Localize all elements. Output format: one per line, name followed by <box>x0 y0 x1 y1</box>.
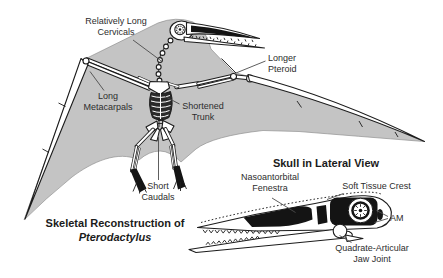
label-longer-pteroid: Longer Pteroid <box>268 53 328 76</box>
label-soft-tissue-crest: Soft Tissue Crest <box>316 181 437 193</box>
main-caption-line1: Skeletal Reconstruction of <box>15 217 215 230</box>
label-am: AM <box>390 213 420 225</box>
label-nasoantorbital-fenestra: Nasoantorbital Fenestra <box>225 172 315 195</box>
label-long-metacarpals: Long Metacarpals <box>63 91 153 114</box>
skull-caption: Skull in Lateral View <box>226 157 426 170</box>
figure-canvas: Relatively Long Cervicals Longer Pteroid… <box>0 0 443 278</box>
label-short-caudals: Short Caudals <box>113 181 203 204</box>
label-shortened-trunk: Shortened Trunk <box>158 101 248 124</box>
label-relatively-long-cervicals: Relatively Long Cervicals <box>71 16 161 39</box>
label-quadrate-articular-jaw-joint: Quadrate-Articular Jaw Joint <box>312 243 432 266</box>
main-caption-line2-genus: Pterodactylus <box>15 231 215 244</box>
